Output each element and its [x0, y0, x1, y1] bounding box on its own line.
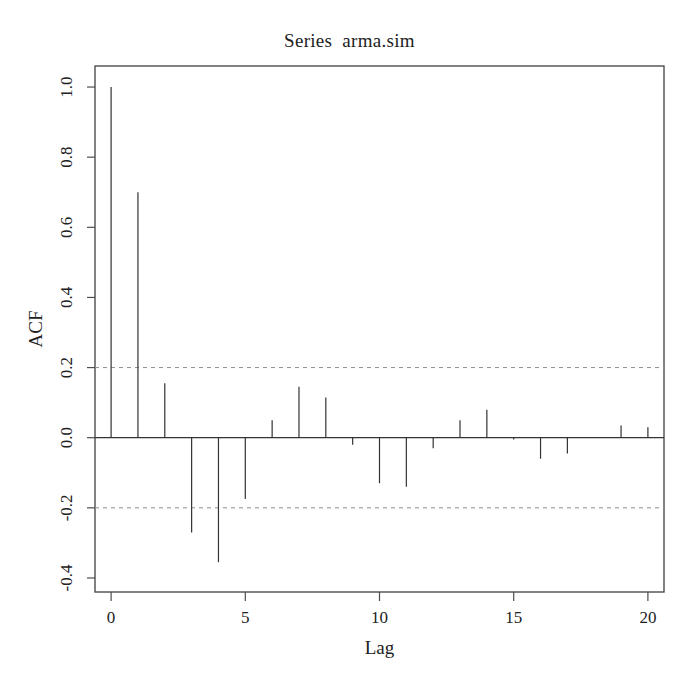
y-axis-label: ACF	[25, 311, 46, 348]
x-axis-tick-label: 0	[107, 608, 116, 627]
y-axis-tick-label: 0.0	[57, 427, 76, 448]
y-axis-tick-label: 1.0	[57, 76, 76, 97]
y-axis-tick-label: 0.6	[57, 217, 76, 238]
y-axis-tick-label: -0.4	[57, 564, 76, 591]
x-axis-label: Lag	[365, 637, 395, 658]
y-axis-tick-label: 0.8	[57, 147, 76, 168]
y-axis-tick-label: -0.2	[57, 494, 76, 521]
x-axis-tick-label: 10	[371, 608, 388, 627]
x-axis-tick-label: 5	[241, 608, 250, 627]
x-axis-tick-label: 20	[639, 608, 656, 627]
y-axis-tick-label: 0.4	[57, 286, 76, 308]
acf-plot-page: Series arma.sim -0.4-0.20.00.20.40.60.81…	[0, 0, 699, 678]
plot-frame	[95, 66, 664, 592]
acf-chart: -0.4-0.20.00.20.40.60.81.005101520LagACF	[0, 0, 699, 678]
x-axis-tick-label: 15	[505, 608, 522, 627]
y-axis-tick-label: 0.2	[57, 357, 76, 378]
